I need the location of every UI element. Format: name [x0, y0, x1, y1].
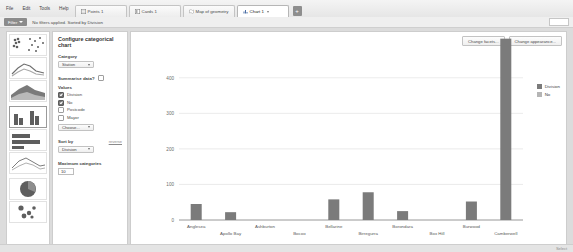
sort-by-select[interactable]: Division: [58, 146, 94, 153]
value-label: Division: [67, 92, 82, 98]
values-label: Values: [58, 85, 122, 90]
summarise-label: Summarise data?: [58, 76, 95, 81]
chart-panel: Change facets... Change appearance... 01…: [130, 31, 567, 245]
chevron-down-icon: [88, 126, 90, 128]
x-axis-category-label: Apollo Bay: [220, 231, 242, 236]
menu-item-file[interactable]: File: [4, 5, 15, 12]
legend-swatch: [537, 84, 542, 89]
chart-bar[interactable]: [397, 211, 408, 220]
status-text: Select: [556, 246, 567, 251]
value-checkbox[interactable]: [58, 100, 64, 106]
value-label: Postcode: [67, 107, 85, 113]
tab-points-1[interactable]: Points 1: [75, 5, 127, 17]
tab-chart-1[interactable]: Chart 1: [237, 5, 289, 17]
chart-legend: Division No: [537, 84, 560, 100]
chart-type-line[interactable]: [9, 57, 47, 79]
legend-swatch: [537, 92, 542, 97]
menu-item-tools[interactable]: Tools: [37, 5, 52, 12]
chart-bar[interactable]: [363, 192, 374, 220]
max-categories-label: Maximum categories: [58, 161, 122, 166]
chart-bar[interactable]: [191, 204, 202, 220]
tab-cards-1[interactable]: Cards 1: [129, 5, 181, 17]
chart-type-scatter-matrix[interactable]: [9, 34, 47, 56]
y-axis-tick: 400: [166, 76, 174, 81]
filter-status-text: No filters applied. Sorted by Division: [32, 20, 103, 25]
menu-bar: File Edit Tools Help Points 1 Cards 1: [0, 0, 573, 18]
x-axis-category-label: Burwood: [463, 224, 481, 229]
tab-label: Chart 1: [250, 9, 264, 14]
category-label: Category: [58, 54, 122, 59]
chevron-down-icon: [88, 148, 90, 150]
sort-by-label: Sort by: [58, 139, 73, 144]
x-axis-category-label: Birregurra: [358, 231, 378, 236]
menu-items: File Edit Tools Help: [0, 0, 71, 17]
value-label: Mayor: [67, 115, 79, 121]
filter-button-label: Filter: [8, 20, 17, 25]
map-icon: [189, 9, 194, 14]
y-axis-tick: 300: [166, 111, 174, 116]
chart-type-bubble[interactable]: [9, 201, 47, 223]
chart-type-area[interactable]: [9, 80, 47, 102]
chevron-down-icon: [19, 21, 23, 23]
x-axis-category-label: Anglesea: [187, 224, 206, 229]
menu-item-edit[interactable]: Edit: [20, 5, 32, 12]
summarise-checkbox[interactable]: [98, 75, 104, 81]
filter-bar-right: [549, 18, 569, 26]
workspace: Configure categorical chart Category Sta…: [0, 28, 573, 252]
category-select[interactable]: Station: [58, 61, 94, 68]
chart-icon: [243, 9, 248, 14]
x-axis-category-label: Camberwell: [494, 231, 517, 236]
value-checkbox[interactable]: [58, 115, 64, 121]
chevron-down-icon[interactable]: [267, 11, 269, 13]
chart-type-horizontal-bar[interactable]: [9, 129, 47, 151]
x-axis-category-label: Bellarine: [325, 224, 343, 229]
panel-title: Configure categorical chart: [58, 36, 122, 48]
tab-map-of-geometry[interactable]: Map of geometry: [183, 5, 235, 17]
chart-bar[interactable]: [328, 199, 339, 220]
value-item-division[interactable]: Division: [58, 92, 122, 98]
tab-label: Cards 1: [142, 9, 157, 14]
legend-label: Division: [545, 84, 560, 89]
legend-item-division[interactable]: Division: [537, 84, 560, 89]
chart-bar[interactable]: [500, 39, 511, 220]
y-axis-tick: 0: [171, 218, 174, 223]
legend-item-no[interactable]: No: [537, 92, 560, 97]
choose-values-label: Choose...: [62, 125, 80, 130]
reverse-sort-link[interactable]: reverse: [109, 139, 122, 144]
plot-area: 0100200300400AngleseaApollo BayAshburton…: [131, 32, 568, 246]
chart-bar[interactable]: [466, 202, 477, 220]
choose-values-button[interactable]: Choose...: [58, 124, 94, 131]
tab-label: Map of geometry: [196, 9, 229, 14]
value-checkbox[interactable]: [58, 107, 64, 113]
chart-type-line-2[interactable]: [9, 152, 47, 174]
configuration-panel: Configure categorical chart Category Sta…: [52, 31, 128, 245]
tab-bar: Points 1 Cards 1 Map of geometry Chart 1: [75, 0, 302, 17]
x-axis-category-label: Borondara: [392, 224, 413, 229]
filter-button[interactable]: Filter: [4, 18, 27, 26]
category-select-value: Station: [62, 62, 75, 67]
chart-type-bar[interactable]: [9, 106, 47, 128]
y-axis-tick: 200: [166, 147, 174, 152]
y-axis-tick: 100: [166, 182, 174, 187]
max-categories-input[interactable]: 10: [58, 168, 74, 175]
sort-by-value: Division: [62, 147, 77, 152]
chart-bar[interactable]: [225, 212, 236, 220]
x-axis-category-label: Bocoo: [293, 231, 306, 236]
value-checkbox[interactable]: [58, 92, 64, 98]
chart-type-rail: [6, 31, 50, 245]
add-tab-button[interactable]: +: [293, 6, 302, 16]
filter-search-input[interactable]: [549, 18, 569, 26]
bar-chart-svg: 0100200300400AngleseaApollo BayAshburton…: [131, 32, 568, 246]
x-axis-category-label: Ashburton: [255, 224, 276, 229]
chevron-down-icon: [88, 64, 90, 66]
filter-bar: Filter No filters applied. Sorted by Div…: [0, 17, 573, 28]
chart-type-pie[interactable]: [9, 178, 47, 200]
value-item-mayor[interactable]: Mayor: [58, 115, 122, 121]
menu-item-help[interactable]: Help: [57, 5, 70, 12]
legend-label: No: [545, 92, 551, 97]
value-label: No: [67, 100, 73, 106]
value-item-postcode[interactable]: Postcode: [58, 107, 122, 113]
value-item-no[interactable]: No: [58, 100, 122, 106]
status-bar: Select: [0, 244, 573, 252]
cards-icon: [135, 9, 140, 14]
